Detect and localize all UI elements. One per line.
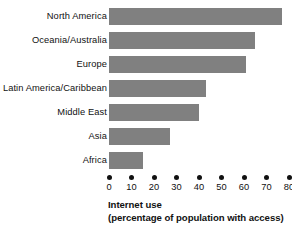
bar	[109, 56, 246, 73]
bar	[109, 8, 282, 25]
bar-track	[109, 128, 289, 145]
bar-track	[109, 80, 289, 97]
bar-track	[109, 56, 289, 73]
category-label: Oceania/Australia	[32, 32, 107, 49]
bar-row: North America	[0, 0, 292, 24]
x-axis-title-line-2: (percentage of population with access)	[108, 211, 292, 224]
tick-dot-icon	[152, 175, 157, 180]
bar-row: Middle East	[0, 96, 292, 120]
tick-dot-icon	[197, 175, 202, 180]
bar-track	[109, 152, 289, 169]
category-label: Latin America/Caribbean	[3, 80, 107, 97]
x-axis: 01020304050607080	[109, 175, 292, 195]
tick-dot-icon	[129, 175, 134, 180]
category-label: Africa	[83, 152, 107, 169]
tick-dot-icon	[219, 175, 224, 180]
bar-row: Europe	[0, 48, 292, 72]
tick-dot-icon	[287, 175, 292, 180]
bar-row: Africa	[0, 144, 292, 168]
category-label: North America	[47, 8, 107, 25]
x-axis-tick-label: 80	[276, 182, 292, 192]
category-label: Middle East	[57, 104, 107, 121]
bar-row: Oceania/Australia	[0, 24, 292, 48]
category-label: Asia	[89, 128, 108, 145]
bar	[109, 128, 170, 145]
tick-dot-icon	[264, 175, 269, 180]
bar	[109, 32, 255, 49]
bar-row: Asia	[0, 120, 292, 144]
x-axis-title-line-1: Internet use	[108, 198, 292, 211]
bar-track	[109, 104, 289, 121]
chart-plot-area: North AmericaOceania/AustraliaEuropeLati…	[0, 0, 292, 168]
tick-dot-icon	[107, 175, 112, 180]
bar-track	[109, 8, 289, 25]
bar-chart: North AmericaOceania/AustraliaEuropeLati…	[0, 0, 292, 232]
bar-track	[109, 32, 289, 49]
x-axis-title: Internet use (percentage of population w…	[108, 198, 292, 224]
bar	[109, 104, 199, 121]
category-label: Europe	[76, 56, 107, 73]
tick-dot-icon	[174, 175, 179, 180]
bar	[109, 80, 206, 97]
bar-row: Latin America/Caribbean	[0, 72, 292, 96]
tick-dot-icon	[242, 175, 247, 180]
bar	[109, 152, 143, 169]
